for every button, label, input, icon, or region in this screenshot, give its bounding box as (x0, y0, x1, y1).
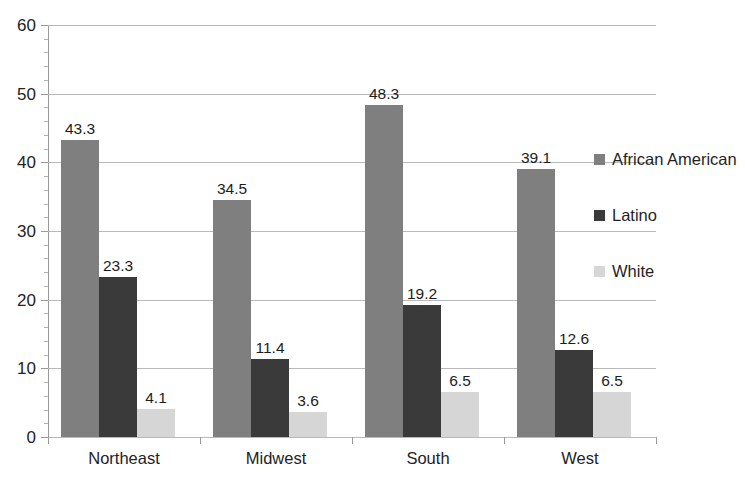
y-tick-minor (44, 66, 48, 67)
bar-value-label: 39.1 (512, 150, 560, 166)
y-tick-minor (44, 204, 48, 205)
gridline (48, 25, 656, 26)
gridline (48, 94, 656, 95)
y-tick-major (41, 162, 48, 163)
y-tick-minor (44, 149, 48, 150)
legend-swatch-icon-latino (594, 210, 605, 221)
y-tick-label: 50 (2, 86, 36, 103)
legend-item-latino[interactable]: Latino (594, 187, 745, 243)
y-tick-minor (44, 410, 48, 411)
y-tick-minor (44, 272, 48, 273)
bar-value-label: 34.5 (208, 181, 256, 197)
y-tick-major (41, 368, 48, 369)
y-tick-minor (44, 190, 48, 191)
bar (99, 277, 137, 437)
y-tick-minor (44, 39, 48, 40)
y-tick-label: 20 (2, 292, 36, 309)
y-tick-label: 10 (2, 360, 36, 377)
bar-value-label: 11.4 (246, 340, 294, 356)
bar (289, 412, 327, 437)
y-tick-minor (44, 258, 48, 259)
legend-item-african-american[interactable]: African American (594, 131, 745, 187)
legend-label-white: White (612, 262, 654, 281)
plot-area: 43.323.34.134.511.43.648.319.26.539.112.… (48, 25, 656, 437)
legend-item-white[interactable]: White (594, 243, 745, 299)
bar (137, 409, 175, 437)
y-tick-label: 40 (2, 154, 36, 171)
bar-value-label: 43.3 (56, 121, 104, 137)
y-tick-minor (44, 176, 48, 177)
bar (441, 392, 479, 437)
y-tick-minor (44, 327, 48, 328)
gridline (48, 300, 656, 301)
y-tick-minor (44, 396, 48, 397)
bar (213, 200, 251, 437)
y-tick-minor (44, 80, 48, 81)
bar-value-label: 6.5 (436, 373, 484, 389)
y-tick-major (41, 94, 48, 95)
y-tick-minor (44, 355, 48, 356)
x-tick (200, 437, 201, 444)
y-tick-minor (44, 217, 48, 218)
bar-value-label: 3.6 (284, 393, 332, 409)
bar (61, 140, 99, 437)
chart-legend: African American Latino White (594, 131, 745, 299)
bar (517, 169, 555, 437)
x-tick (656, 437, 657, 444)
y-tick-minor (44, 121, 48, 122)
y-tick-minor (44, 52, 48, 53)
bar-value-label: 23.3 (94, 258, 142, 274)
gridline (48, 162, 656, 163)
y-tick-minor (44, 341, 48, 342)
bar (555, 350, 593, 437)
bar-value-label: 48.3 (360, 86, 408, 102)
y-tick-label: 30 (2, 223, 36, 240)
x-axis-label: Northeast (48, 449, 200, 468)
x-tick (504, 437, 505, 444)
y-tick-minor (44, 423, 48, 424)
x-tick (48, 437, 49, 444)
x-axis-label: West (504, 449, 656, 468)
bar-value-label: 6.5 (588, 373, 636, 389)
y-tick-label: 0 (2, 429, 36, 446)
y-tick-major (41, 300, 48, 301)
bar-value-label: 19.2 (398, 286, 446, 302)
x-axis-label: Midwest (200, 449, 352, 468)
grouped-bar-chart: 43.323.34.134.511.43.648.319.26.539.112.… (0, 0, 745, 485)
y-tick-minor (44, 286, 48, 287)
bar-value-label: 4.1 (132, 390, 180, 406)
gridline (48, 231, 656, 232)
bar (403, 305, 441, 437)
bar-value-label: 12.6 (550, 331, 598, 347)
legend-label-african-american: African American (612, 150, 737, 169)
y-tick-minor (44, 245, 48, 246)
legend-swatch-icon-white (594, 266, 605, 277)
legend-label-latino: Latino (612, 206, 657, 225)
bar (365, 105, 403, 437)
y-tick-major (41, 231, 48, 232)
y-tick-minor (44, 135, 48, 136)
legend-swatch-icon-african-american (594, 154, 605, 165)
x-tick (352, 437, 353, 444)
y-tick-minor (44, 313, 48, 314)
y-tick-minor (44, 382, 48, 383)
y-tick-major (41, 25, 48, 26)
y-tick-minor (44, 107, 48, 108)
y-tick-label: 60 (2, 17, 36, 34)
x-axis-label: South (352, 449, 504, 468)
bar (593, 392, 631, 437)
y-tick-major (41, 437, 48, 438)
